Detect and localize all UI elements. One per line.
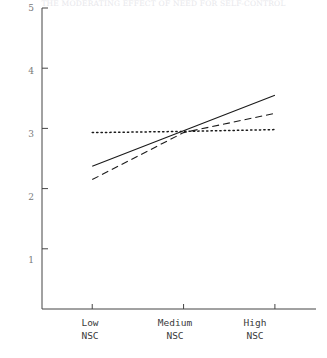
chart-container: THE MODERATING EFFECT OF NEED FOR SELF-C… (0, 0, 327, 358)
y-axis-ticks (42, 8, 48, 249)
plot-area (0, 0, 327, 358)
x-axis-ticks (92, 304, 275, 309)
data-series-layer (92, 95, 275, 179)
series-dashed-line (92, 113, 275, 179)
